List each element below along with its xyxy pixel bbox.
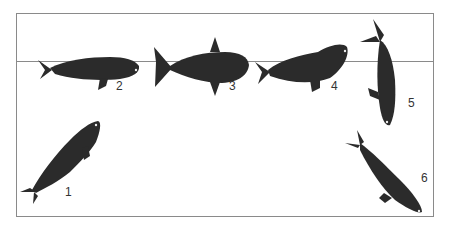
whale-6-icon [345,130,422,212]
position-label-6: 6 [421,172,428,184]
position-label-5: 5 [408,97,415,109]
whale-5-icon [360,19,395,125]
position-label-3: 3 [229,80,236,92]
position-label-2: 2 [116,80,123,92]
whale-1-icon [20,121,100,204]
position-label-1: 1 [65,186,72,198]
whale-2-icon [38,57,139,90]
position-label-4: 4 [331,80,338,92]
